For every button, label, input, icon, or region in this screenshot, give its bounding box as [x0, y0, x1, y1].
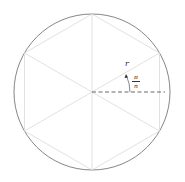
- diagram-canvas: r π n: [0, 0, 185, 182]
- angle-arc: [127, 76, 131, 92]
- angle-label: π n: [132, 74, 140, 89]
- hexagon-circle-figure: [0, 0, 185, 182]
- arrowhead-icon: [125, 74, 129, 78]
- radius-label: r: [125, 59, 129, 68]
- angle-denominator: n: [132, 83, 140, 89]
- angle-numerator: π: [132, 74, 140, 80]
